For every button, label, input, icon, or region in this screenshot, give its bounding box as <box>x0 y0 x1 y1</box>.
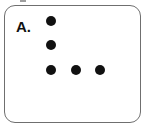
data-point-p2 <box>46 40 56 50</box>
panel-label: A. <box>16 19 31 35</box>
data-point-p3 <box>46 65 56 75</box>
scan-artifact <box>20 0 26 2</box>
figure-panel: A. <box>4 5 141 123</box>
data-point-p4 <box>71 65 81 75</box>
data-point-p5 <box>95 65 105 75</box>
figure-canvas: A. <box>0 0 148 131</box>
data-point-p1 <box>46 16 56 26</box>
